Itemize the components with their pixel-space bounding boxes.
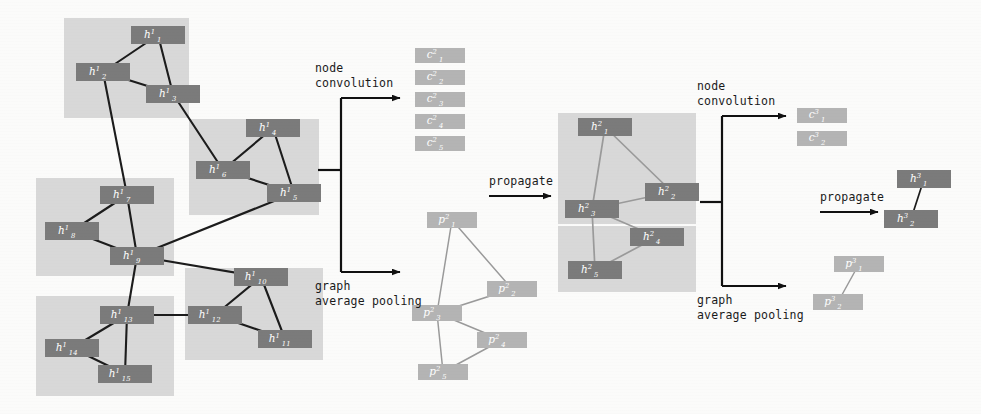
node-h1_10[interactable]: h110: [234, 268, 288, 286]
node-h1_1[interactable]: h11: [131, 26, 185, 44]
edge-pool2-p2_1-p2_3: [437, 220, 452, 313]
node-c3_1[interactable]: c31: [797, 108, 847, 124]
node-h1_2[interactable]: h12: [76, 63, 130, 81]
node-c2_1[interactable]: c21: [415, 48, 465, 64]
label-graph-average-pooling-1: graphaverage pooling: [315, 279, 422, 308]
label-propagate-2: propagate: [820, 190, 884, 204]
node-h3_1[interactable]: h31: [897, 170, 951, 188]
node-h2_2[interactable]: h22: [645, 183, 699, 201]
node-h2_3[interactable]: h23: [565, 200, 619, 218]
node-h2_5[interactable]: h25: [568, 261, 622, 279]
node-h1_12[interactable]: h112: [188, 306, 242, 324]
node-p2_2[interactable]: p22: [487, 281, 537, 298]
node-h1_11[interactable]: h111: [258, 330, 312, 348]
node-h1_9[interactable]: h19: [110, 247, 164, 265]
node-h1_13[interactable]: h113: [100, 306, 154, 324]
node-c2_3[interactable]: c23: [415, 92, 465, 108]
node-c2_4[interactable]: c24: [415, 114, 465, 130]
node-p2_4[interactable]: p24: [477, 332, 527, 349]
node-h2_1[interactable]: h21: [578, 118, 632, 136]
label-node-convolution-1: nodeconvolution: [315, 61, 393, 90]
node-h1_5[interactable]: h15: [267, 184, 321, 202]
node-h1_6[interactable]: h16: [196, 161, 250, 179]
node-h1_8[interactable]: h18: [45, 222, 99, 240]
graph-pooling-diagram: h11h12h13h14h16h15h17h18h19h110h113h112h…: [0, 0, 981, 414]
diagram-canvas: h11h12h13h14h16h15h17h18h19h110h113h112h…: [0, 0, 981, 414]
node-h1_3[interactable]: h13: [146, 85, 200, 103]
label-propagate-1: propagate: [489, 174, 553, 188]
edge-pool2-p2_1-p2_2: [452, 220, 512, 289]
node-c3_2[interactable]: c32: [797, 131, 847, 147]
node-h1_4[interactable]: h14: [246, 119, 300, 137]
node-p3_1[interactable]: p31: [834, 256, 884, 273]
node-h2_4[interactable]: h24: [630, 228, 684, 246]
node-p2_5[interactable]: p25: [418, 364, 468, 381]
node-h3_2[interactable]: h32: [884, 210, 938, 228]
node-c2_5[interactable]: c25: [415, 136, 465, 152]
node-p2_1[interactable]: p21: [427, 212, 477, 229]
node-h1_7[interactable]: h17: [100, 186, 154, 204]
label-node-convolution-2: nodeconvolution: [697, 79, 775, 108]
label-graph-average-pooling-2: graphaverage pooling: [697, 293, 804, 322]
node-c2_2[interactable]: c22: [415, 70, 465, 86]
node-p3_2[interactable]: p32: [813, 294, 863, 311]
node-h1_14[interactable]: h114: [45, 339, 99, 357]
node-h1_15[interactable]: h115: [98, 365, 152, 383]
